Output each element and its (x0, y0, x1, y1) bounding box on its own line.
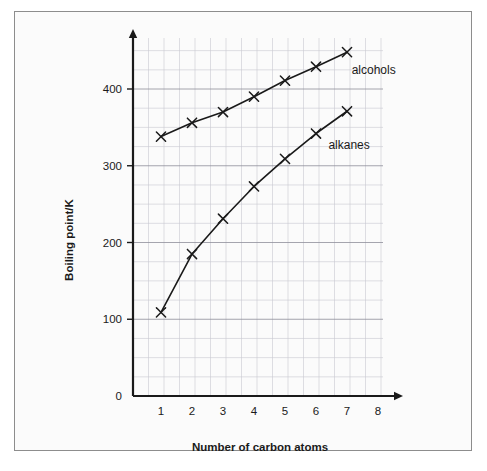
y-axis-title: Boiling point/K (63, 198, 75, 280)
x-axis-title: Number of carbon atoms (192, 441, 328, 453)
y-axis-tick-label: 0 (116, 390, 122, 402)
y-axis-tick-label: 100 (103, 313, 122, 325)
axis-lines-group (129, 29, 403, 400)
y-axis-arrowhead (129, 29, 137, 38)
y-axis-tick-label: 200 (103, 237, 122, 249)
x-axis-ticks-group: 12345678 (158, 405, 381, 417)
x-axis-tick-label: 2 (189, 405, 195, 417)
y-axis-tick-label: 300 (103, 160, 122, 172)
x-axis-tick-label: 5 (282, 405, 288, 417)
x-axis-arrowhead (394, 392, 403, 400)
series-label-alcohols: alcohols (352, 63, 396, 77)
x-axis-tick-label: 6 (313, 405, 319, 417)
x-axis-tick-label: 3 (220, 405, 226, 417)
x-axis-tick-label: 7 (344, 405, 350, 417)
series-annotations-group: alcoholsalkanes (328, 63, 395, 152)
data-markers-group (156, 48, 351, 317)
chart-plot-area: 0100200300400 12345678 alcoholsalkanes N… (0, 0, 487, 471)
x-axis-tick-label: 8 (375, 405, 381, 417)
figure-container: 0100200300400 12345678 alcoholsalkanes N… (0, 0, 487, 471)
major-gridlines-group (133, 89, 383, 396)
y-axis-tick-label: 400 (103, 83, 122, 95)
x-axis-tick-label: 1 (158, 405, 164, 417)
series-label-alkanes: alkanes (328, 138, 369, 152)
x-axis-tick-label: 4 (251, 405, 258, 417)
y-axis-ticks-group: 0100200300400 (103, 83, 134, 402)
